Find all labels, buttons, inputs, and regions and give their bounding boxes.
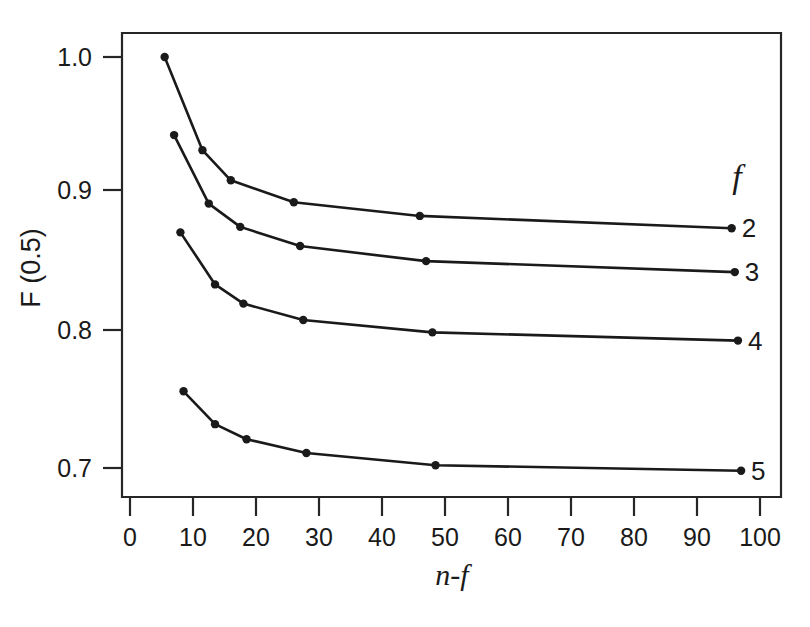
x-tick-label-90: 90 [683, 523, 711, 551]
data-point-f3-5 [731, 268, 739, 276]
legend-label-f2: 2 [742, 213, 756, 243]
data-point-f2-5 [727, 224, 735, 232]
data-point-f5-2 [242, 435, 250, 443]
data-point-f4-5 [734, 336, 742, 344]
line-chart-svg: 1.0 0.9 0.8 0.7 F (0.5) 0102030405060708… [0, 0, 810, 627]
data-point-f5-1 [211, 420, 219, 428]
data-point-f3-4 [422, 257, 430, 265]
data-point-f4-2 [239, 299, 247, 307]
legend-label-f4: 4 [748, 326, 762, 356]
legend-label-f5: 5 [751, 456, 765, 486]
x-tick-label-50: 50 [431, 523, 459, 551]
data-point-f2-4 [416, 212, 424, 220]
data-point-f5-4 [431, 461, 439, 469]
data-point-f2-1 [198, 146, 206, 154]
chart-figure: 1.0 0.9 0.8 0.7 F (0.5) 0102030405060708… [0, 0, 810, 627]
data-point-f4-0 [176, 228, 184, 236]
data-point-f3-1 [205, 199, 213, 207]
legend-label-f3: 3 [745, 257, 759, 287]
x-tick-label-10: 10 [179, 523, 207, 551]
y-tick-label-1.0: 1.0 [57, 43, 92, 71]
data-point-f5-0 [179, 387, 187, 395]
x-axis-title: n-f [435, 558, 472, 591]
x-tick-label-0: 0 [123, 523, 137, 551]
y-tick-label-0.9: 0.9 [57, 176, 92, 204]
x-tick-label-20: 20 [242, 523, 270, 551]
data-point-f2-3 [290, 198, 298, 206]
data-point-f4-1 [211, 280, 219, 288]
data-point-f5-3 [302, 449, 310, 457]
y-axis-title: F (0.5) [16, 228, 46, 308]
data-point-f2-2 [227, 176, 235, 184]
x-tick-label-40: 40 [368, 523, 396, 551]
data-point-f4-3 [299, 316, 307, 324]
x-tick-label-70: 70 [557, 523, 585, 551]
y-tick-label-0.8: 0.8 [57, 316, 92, 344]
x-tick-label-100: 100 [739, 523, 781, 551]
data-point-f5-5 [737, 467, 745, 475]
x-tick-label-80: 80 [620, 523, 648, 551]
x-tick-label-60: 60 [494, 523, 522, 551]
data-point-f3-0 [170, 131, 178, 139]
data-point-f3-2 [236, 223, 244, 231]
data-point-f3-3 [296, 242, 304, 250]
data-point-f4-4 [428, 328, 436, 336]
data-point-f2-0 [160, 53, 168, 61]
x-tick-label-30: 30 [305, 523, 333, 551]
y-tick-label-0.7: 0.7 [57, 454, 92, 482]
